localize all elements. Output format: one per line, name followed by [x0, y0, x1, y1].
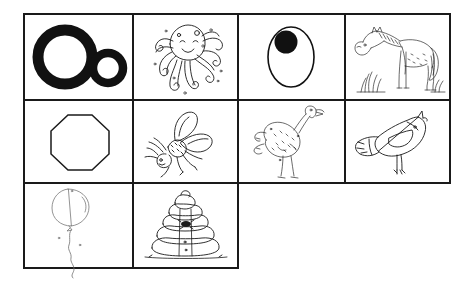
- cell-fly[interactable]: [133, 100, 238, 183]
- cell-olive[interactable]: [238, 14, 345, 100]
- fly-icon: [133, 100, 238, 183]
- olive-icon: [238, 14, 345, 100]
- worksheet-page: [0, 0, 474, 297]
- horse-icon: [345, 14, 450, 100]
- balloon-icon: [24, 183, 133, 268]
- octagon-icon: [24, 100, 133, 183]
- ostrich-icon: [238, 100, 345, 183]
- cell-beehive[interactable]: [133, 183, 238, 268]
- beehive-icon: [133, 183, 238, 268]
- cell-letter-oo[interactable]: [24, 14, 133, 100]
- octopus-icon: [133, 14, 238, 100]
- cell-octopus[interactable]: [133, 14, 238, 100]
- letter-oo-icon: [24, 14, 133, 100]
- cell-ostrich[interactable]: [238, 100, 345, 183]
- cell-octagon[interactable]: [24, 100, 133, 183]
- bird-icon: [345, 100, 450, 183]
- cell-horse[interactable]: [345, 14, 450, 100]
- cell-bird[interactable]: [345, 100, 450, 183]
- cell-balloon[interactable]: [24, 183, 133, 268]
